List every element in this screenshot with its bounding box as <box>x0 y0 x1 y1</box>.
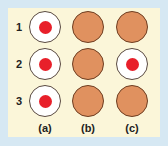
growth-dish <box>116 85 148 117</box>
growth-dish <box>72 11 104 43</box>
col-label-c: (c) <box>115 122 149 134</box>
row-label-2: 2 <box>13 58 25 70</box>
row-label-3: 3 <box>13 95 25 107</box>
clear-dish-with-red-dot <box>29 11 61 43</box>
clear-dish-with-red-dot <box>29 48 61 80</box>
row-label-1: 1 <box>13 21 25 33</box>
growth-dish <box>72 85 104 117</box>
col-label-a: (a) <box>28 122 62 134</box>
growth-dish <box>72 48 104 80</box>
clear-dish-with-red-dot <box>116 48 148 80</box>
clear-dish-with-red-dot <box>29 85 61 117</box>
growth-dish <box>116 11 148 43</box>
col-label-b: (b) <box>71 122 105 134</box>
